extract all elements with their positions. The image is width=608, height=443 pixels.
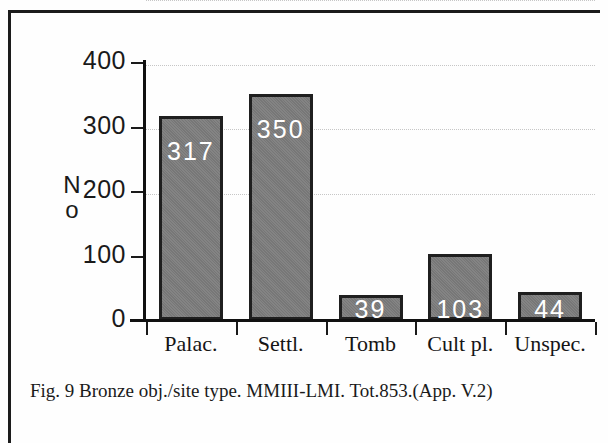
x-axis-category-label: Cult pl.	[415, 331, 505, 357]
bar: 350	[249, 94, 313, 320]
figure-root: N o 0100200300400 3173503910344 Palac.Se…	[0, 0, 608, 443]
x-axis-line	[130, 319, 595, 322]
y-axis-tick-label: 200	[40, 175, 126, 204]
y-axis-tick-label: 100	[40, 240, 126, 269]
figure-caption: Fig. 9 Bronze obj./site type. MMIII-LMI.…	[30, 380, 590, 402]
y-axis-tick-label: 300	[40, 111, 126, 140]
gridline	[146, 0, 595, 1]
bar: 44	[518, 292, 582, 320]
bar-value-label: 350	[252, 115, 310, 144]
x-axis-category-label: Tomb	[326, 331, 416, 357]
y-axis-tick-label: 0	[40, 304, 126, 333]
bar: 39	[339, 295, 403, 320]
x-axis-tick	[595, 322, 597, 335]
x-axis-category-label: Unspec.	[505, 331, 595, 357]
y-axis-tick-label: 400	[40, 46, 126, 75]
bar: 317	[159, 116, 223, 320]
bar-chart: N o 0100200300400 3173503910344 Palac.Se…	[0, 0, 608, 370]
x-axis-category-label: Settl.	[236, 331, 326, 357]
plot-area: 3173503910344	[146, 62, 595, 320]
bar-value-label: 317	[162, 137, 220, 166]
bar: 103	[428, 254, 492, 320]
x-axis-category-label: Palac.	[146, 331, 236, 357]
